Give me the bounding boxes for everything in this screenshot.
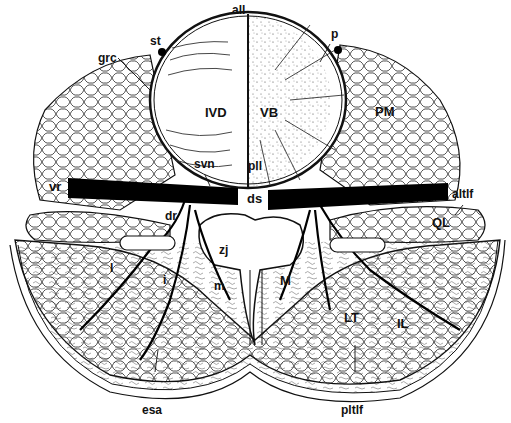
label-l: l xyxy=(110,262,113,274)
label-esa: esa xyxy=(142,404,162,416)
label-i: i xyxy=(163,274,166,286)
label-pll: pll xyxy=(248,160,262,172)
label-vb: VB xyxy=(260,107,278,119)
label-grc: grc xyxy=(98,52,117,64)
cross-section-drawing xyxy=(0,0,511,423)
label-dr: dr xyxy=(165,210,177,222)
label-vr: vr xyxy=(49,181,61,193)
label-m: m xyxy=(214,280,225,292)
spine-cross-section-figure: all st p grc IVD VB PM svn pll vr ds alt… xyxy=(0,0,511,423)
label-ivd: IVD xyxy=(205,107,227,119)
label-ql: QL xyxy=(432,217,450,229)
label-pltlf: pltlf xyxy=(341,404,363,416)
label-lt: LT xyxy=(344,312,359,324)
label-il: IL xyxy=(397,318,409,330)
label-all: all xyxy=(232,4,245,16)
label-p: p xyxy=(331,28,338,40)
label-M: M xyxy=(280,275,291,287)
label-svn: svn xyxy=(194,158,215,170)
ventral-ramus-bar-right xyxy=(268,183,448,210)
sympathetic-trunk-dot-right xyxy=(334,46,342,54)
label-altlf: altlf xyxy=(452,188,473,200)
quadratus-lumborum-right xyxy=(330,207,485,243)
label-st: st xyxy=(150,35,161,47)
label-ds: ds xyxy=(247,193,262,205)
sympathetic-trunk-dot xyxy=(158,48,166,56)
label-zj: zj xyxy=(219,244,228,256)
label-pm: PM xyxy=(375,106,395,118)
